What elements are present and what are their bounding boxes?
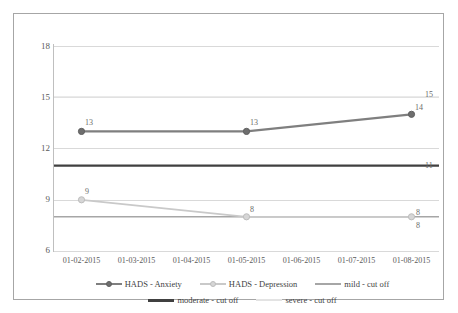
depression-label-1: 9: [85, 188, 89, 196]
legend-row-1: HADS - Anxiety HADS - Depression mild - …: [28, 276, 457, 292]
plot-area: 13 13 14 9 8 8 15 11 8: [54, 46, 439, 251]
mild-cutoff-label: 8: [416, 209, 420, 217]
y-tick-12: 12: [16, 144, 50, 153]
x-tick-5: 01-06-2015: [274, 255, 329, 269]
legend-swatch-line-icon: [148, 296, 174, 305]
legend-item-hads-anxiety[interactable]: HADS - Anxiety: [96, 279, 182, 289]
depression-label-2: 8: [250, 206, 254, 214]
anxiety-label-3: 14: [415, 104, 423, 112]
y-tick-6: 6: [16, 246, 50, 255]
depression-point: [243, 214, 249, 220]
legend-item-mild-cut-off[interactable]: mild - cut off: [315, 279, 389, 289]
anxiety-point: [78, 128, 84, 134]
x-tick-4: 01-05-2015: [219, 255, 274, 269]
chart-screenshot: 18 15 12 9 6: [0, 0, 458, 313]
anxiety-point: [243, 128, 249, 134]
depression-point: [408, 214, 414, 220]
legend-item-severe-cut-off[interactable]: severe - cut off: [256, 295, 336, 305]
anxiety-point: [408, 111, 414, 117]
x-tick-1: 01-02-2015: [54, 255, 109, 269]
legend-item-hads-depression[interactable]: HADS - Depression: [200, 279, 297, 289]
legend-swatch-line-icon: [96, 280, 122, 289]
legend-swatch-line-icon: [256, 296, 282, 305]
x-axis-ticks: 01-02-2015 01-03-2015 01-04-2015 01-05-2…: [54, 255, 439, 269]
anxiety-label-1: 13: [85, 119, 93, 127]
chart-frame: 18 15 12 9 6: [13, 13, 444, 300]
depression-point: [78, 197, 84, 203]
legend-label: HADS - Depression: [229, 279, 297, 289]
y-tick-18: 18: [16, 42, 50, 51]
legend-item-moderate-cut-off[interactable]: moderate - cut off: [148, 295, 238, 305]
moderate-cutoff-label: 11: [425, 162, 433, 170]
legend-label: moderate - cut off: [177, 295, 238, 305]
x-tick-2: 01-03-2015: [109, 255, 164, 269]
x-tick-3: 01-04-2015: [164, 255, 219, 269]
chart-legend: HADS - Anxiety HADS - Depression mild - …: [28, 276, 457, 308]
legend-swatch-line-icon: [200, 280, 226, 289]
severe-cutoff-label: 15: [425, 91, 433, 99]
x-tick-7: 01-08-2015: [384, 255, 439, 269]
anxiety-label-2: 13: [250, 119, 258, 127]
y-tick-15: 15: [16, 93, 50, 102]
x-tick-6: 01-07-2015: [329, 255, 384, 269]
legend-label: severe - cut off: [285, 295, 336, 305]
gridline-6: [54, 251, 439, 252]
y-axis-ticks: 18 15 12 9 6: [14, 46, 50, 251]
legend-swatch-line-icon: [315, 280, 341, 289]
series-layer: [54, 46, 439, 251]
legend-label: HADS - Anxiety: [125, 279, 182, 289]
y-tick-9: 9: [16, 195, 50, 204]
depression-label-3: 8: [416, 222, 420, 230]
legend-label: mild - cut off: [344, 279, 389, 289]
legend-row-2: moderate - cut off severe - cut off: [28, 292, 457, 308]
